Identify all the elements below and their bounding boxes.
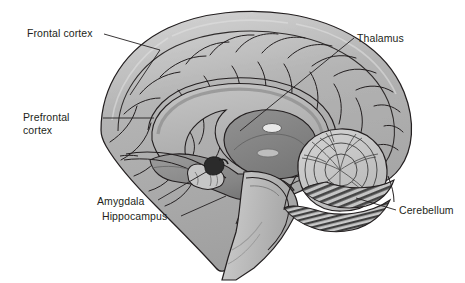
label-frontal-cortex: Frontal cortex [27, 27, 93, 40]
label-amygdala: Amygdala [97, 195, 145, 208]
label-cerebellum: Cerebellum [399, 204, 454, 217]
label-prefrontal-cortex: Prefrontal cortex [23, 111, 70, 136]
label-hippocampus: Hippocampus [102, 210, 167, 223]
label-thalamus: Thalamus [357, 32, 404, 45]
brain-diagram: Frontal cortex Prefrontal cortex Thalamu… [0, 0, 465, 283]
ventricle-highlight [263, 124, 282, 133]
